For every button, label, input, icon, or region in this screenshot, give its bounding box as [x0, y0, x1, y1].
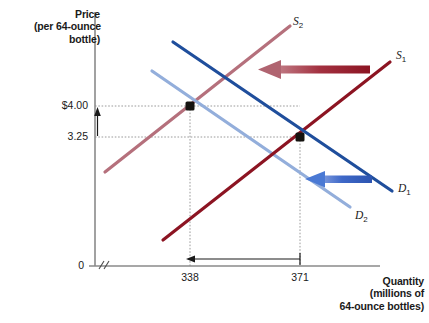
- x-tick-label-371: 371: [283, 271, 317, 283]
- axis-lines: [89, 12, 380, 266]
- x-axis-title-line2: (millions of: [276, 287, 424, 299]
- curve-label-d2: D2: [355, 209, 368, 225]
- equilibrium-point-new: [186, 102, 195, 111]
- demand-curve-d1: [173, 42, 392, 191]
- supply-shift-arrow: [258, 60, 370, 79]
- curve-label-s1: S1: [396, 49, 406, 65]
- x-tick-label-338: 338: [173, 271, 207, 283]
- guidelines: [95, 106, 300, 266]
- curve-label-s2: S2: [293, 15, 303, 31]
- equilibrium-point-original: [296, 133, 305, 142]
- curve-label-s2-sub: 2: [299, 21, 303, 30]
- supply-curve-s2: [105, 26, 290, 172]
- y-axis-title-line3: bottle): [34, 33, 100, 45]
- y-axis-title-line2: (per 64-ounce: [34, 20, 100, 32]
- curve-label-d1-sub: 1: [406, 188, 410, 197]
- demand-shift-arrow: [305, 171, 372, 188]
- curve-label-d1: D1: [398, 182, 411, 198]
- x-axis-title-line3: 64-ounce bottles): [276, 300, 424, 312]
- y-tick-label-325: 3.25: [38, 130, 88, 142]
- origin-label: 0: [66, 259, 84, 271]
- y-tick-label-400: $4.00: [38, 99, 88, 111]
- y-axis-title: Price (per 64-ounce bottle): [34, 8, 100, 45]
- y-axis-title-line1: Price: [34, 8, 100, 20]
- curve-label-s1-sub: 1: [402, 55, 406, 64]
- curve-label-d2-sub: 2: [363, 215, 367, 224]
- axis-break-icon: [99, 261, 109, 269]
- supply-demand-chart: Price (per 64-ounce bottle) Quantity (mi…: [0, 0, 429, 323]
- demand-curve-d2: [152, 71, 350, 207]
- quantity-decrease-arrow: [186, 253, 300, 265]
